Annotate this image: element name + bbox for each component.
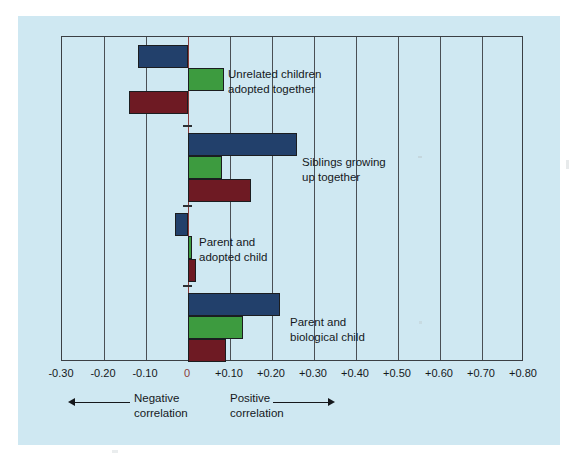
group-separator-tick-2 [183, 205, 192, 207]
scan-speck-1 [418, 156, 422, 158]
negative-arrow [68, 398, 130, 406]
gridline-+0.60 [440, 37, 441, 360]
caption-positive-line1: Positive [230, 392, 270, 404]
bar-adopted-green[interactable] [188, 236, 192, 259]
group-separator-tick-3 [183, 285, 192, 287]
group-label-adopted: Parent and adopted child [199, 235, 267, 264]
bar-unrelated-blue[interactable] [138, 45, 188, 68]
gridline--0.10 [146, 37, 147, 360]
scan-speck-3 [566, 160, 569, 169]
group-label-unrelated: Unrelated children adopted together [228, 67, 321, 96]
bar-unrelated-red[interactable] [129, 91, 188, 114]
tick-label--0.20: -0.20 [81, 367, 125, 379]
arrow-left-icon [68, 398, 75, 406]
bar-siblings-blue[interactable] [188, 133, 297, 156]
arrow-left-line [75, 402, 130, 403]
tick-label-+0.70: +0.70 [459, 367, 503, 379]
bar-adopted-blue[interactable] [175, 213, 188, 236]
tick-label-+0.80: +0.80 [501, 367, 545, 379]
tick-label-zero: 0 [165, 367, 209, 379]
tick-label-+0.50: +0.50 [375, 367, 419, 379]
bar-biological-green[interactable] [188, 316, 243, 339]
figure-root: Unrelated children adopted together Sibl… [0, 0, 578, 461]
group-label-biological-line2: biological child [290, 331, 365, 343]
chart-panel: Unrelated children adopted together Sibl… [18, 16, 560, 445]
group-label-adopted-line1: Parent and [199, 236, 255, 248]
caption-positive-line2: correlation [230, 407, 284, 419]
bar-adopted-red[interactable] [188, 259, 196, 282]
arrow-right-line [273, 402, 328, 403]
bar-siblings-red[interactable] [188, 179, 251, 202]
gridline--0.20 [104, 37, 105, 360]
bar-siblings-green[interactable] [188, 156, 222, 179]
group-label-siblings: Siblings growing up together [302, 155, 386, 184]
tick-label--0.30: -0.30 [39, 367, 83, 379]
caption-negative-line2: correlation [134, 407, 188, 419]
tick-label-+0.60: +0.60 [417, 367, 461, 379]
group-separator-tick-1 [183, 125, 192, 127]
bar-biological-red[interactable] [188, 339, 226, 362]
group-label-siblings-line2: up together [302, 171, 360, 183]
tick-label-+0.30: +0.30 [291, 367, 335, 379]
caption-negative: Negative correlation [134, 391, 188, 420]
gridline-+0.70 [482, 37, 483, 360]
scan-speck-2 [419, 321, 422, 324]
group-label-unrelated-line1: Unrelated children [228, 68, 321, 80]
tick-label-+0.20: +0.20 [249, 367, 293, 379]
group-label-unrelated-line2: adopted together [228, 83, 315, 95]
gridline-+0.50 [398, 37, 399, 360]
positive-arrow [273, 398, 335, 406]
gridline-+0.40 [356, 37, 357, 360]
plot-area: Unrelated children adopted together Sibl… [61, 36, 523, 361]
caption-negative-line1: Negative [134, 392, 179, 404]
group-label-adopted-line2: adopted child [199, 251, 267, 263]
tick-label-+0.10: +0.10 [207, 367, 251, 379]
group-label-biological: Parent and biological child [290, 315, 365, 344]
bar-biological-blue[interactable] [188, 293, 280, 316]
group-label-biological-line1: Parent and [290, 316, 346, 328]
tick-label--0.10: -0.10 [123, 367, 167, 379]
arrow-right-icon [328, 398, 335, 406]
bar-unrelated-green[interactable] [188, 68, 224, 91]
scan-speck-4 [112, 450, 118, 453]
group-label-siblings-line1: Siblings growing [302, 156, 386, 168]
tick-label-+0.40: +0.40 [333, 367, 377, 379]
